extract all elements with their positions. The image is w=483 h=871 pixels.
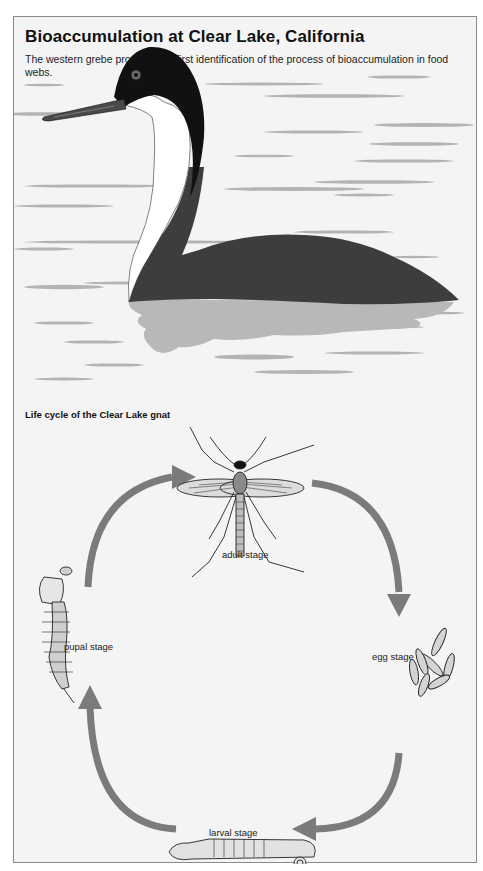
label-adult-stage: adult stage xyxy=(222,549,268,560)
arrowheads xyxy=(78,465,411,841)
arrow-larval-to-pupal xyxy=(90,707,176,829)
grebe-illustration xyxy=(14,17,478,864)
larva-icon xyxy=(169,839,315,864)
arrow-pupal-to-adult xyxy=(88,477,172,587)
egg-cluster-icon xyxy=(408,627,457,698)
label-larval-stage: larval stage xyxy=(209,827,258,838)
label-egg-stage: egg stage xyxy=(372,651,414,662)
grebe-beak xyxy=(42,99,126,121)
pupa-icon xyxy=(39,567,74,703)
figure-frame: Bioaccumulation at Clear Lake, Californi… xyxy=(13,16,477,863)
label-pupal-stage: pupal stage xyxy=(64,641,113,652)
arrow-egg-to-larval xyxy=(316,753,399,829)
arrow-adult-to-egg xyxy=(312,483,399,592)
lifecycle-title: Life cycle of the Clear Lake gnat xyxy=(25,409,170,420)
grebe-reflection xyxy=(129,299,454,353)
